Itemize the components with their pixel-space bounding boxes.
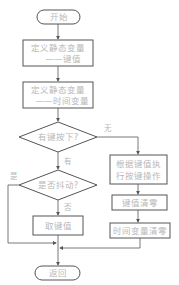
clear-time-box: 时间变量清零 [110, 223, 170, 238]
clear-time-label: 时间变量清零 [113, 226, 167, 236]
start-label: 开始 [50, 12, 68, 22]
decision-key-pressed: 有键按下? [19, 122, 97, 152]
execute-action-line1: 根据键值执 [116, 159, 161, 169]
start-terminal: 开始 [37, 10, 80, 24]
decision-jitter: 是否抖动? [19, 170, 97, 200]
execute-action-line2: 行按键操作 [116, 171, 161, 181]
define-time-box: 定义静态变量 ——时间变量 [23, 82, 93, 108]
get-key-label: 取键值 [45, 221, 72, 231]
clear-key-label: 键值清零 [122, 198, 158, 208]
clear-key-box: 键值清零 [112, 195, 167, 210]
define-key-line2: ——键值 [46, 54, 81, 64]
end-terminal: 返回 [35, 266, 80, 280]
define-key-box: 定义静态变量 ——键值 [23, 40, 93, 66]
yes-label: 有 [64, 156, 72, 166]
get-key-box: 取键值 [33, 216, 83, 235]
jitter-no-label: 否 [64, 203, 72, 212]
jitter-yes-label: 是 [10, 172, 18, 181]
flowchart-canvas: 开始 定义静态变量 ——键值 定义静态变量 ——时间变量 有键按下? 无 有 根… [0, 0, 179, 285]
decision-jitter-label: 是否抖动? [38, 180, 79, 190]
arrow-no [97, 137, 138, 154]
end-label: 返回 [49, 268, 67, 278]
execute-action-box: 根据键值执 行按键操作 [110, 155, 167, 184]
define-time-line2: ——时间变量 [36, 96, 89, 106]
no-label: 无 [104, 124, 112, 133]
define-key-line1: 定义静态变量 [31, 43, 85, 53]
arrow-merge-right [60, 238, 140, 248]
define-time-line1: 定义静态变量 [31, 85, 85, 95]
decision-key-pressed-label: 有键按下? [38, 132, 79, 142]
